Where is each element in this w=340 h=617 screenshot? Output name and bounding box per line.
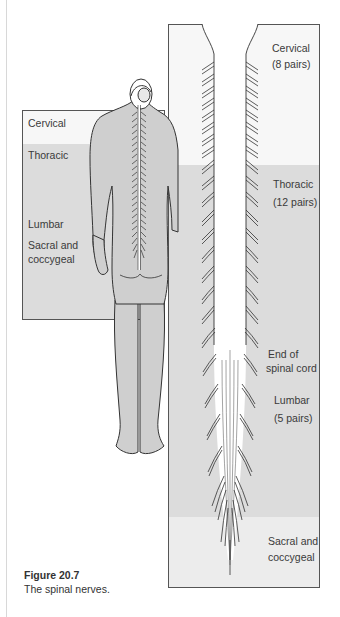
right-leg — [140, 300, 165, 454]
label-end-of-cord-2: spinal cord — [266, 361, 317, 376]
label-cervical-pairs: (8 pairs) — [272, 57, 311, 72]
label-lumbar: Lumbar — [274, 393, 310, 408]
label-coccygeal: coccygeal — [268, 550, 315, 565]
label-sacral: Sacral and — [268, 534, 318, 549]
label-lumbar-pairs: (5 pairs) — [274, 411, 313, 426]
label-end-of-cord: End of — [268, 347, 298, 362]
left-hand — [93, 235, 108, 275]
figure-number: Figure 20.7 — [24, 569, 79, 581]
figure-caption: The spinal nerves. — [24, 583, 110, 595]
human-figure-illustration — [0, 0, 340, 617]
left-leg — [114, 300, 138, 454]
label-thoracic: Thoracic — [273, 177, 313, 192]
label-thoracic-pairs: (12 pairs) — [273, 195, 317, 210]
label-cervical: Cervical — [272, 41, 310, 56]
